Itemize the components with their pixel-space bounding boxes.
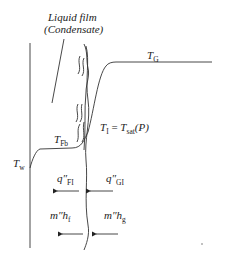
title-pointer-line xyxy=(52,39,64,103)
label-mh-g: m″hg xyxy=(104,209,126,224)
temperature-profile xyxy=(30,62,212,168)
label-T-I-equals-T-sat: TI = Tsat(P) xyxy=(100,121,149,136)
title-liquid-film: Liquid film xyxy=(47,11,97,23)
interface-inner-line xyxy=(84,92,86,150)
stray-dot xyxy=(201,243,202,244)
label-T-Fb: TFb xyxy=(54,133,68,148)
label-T-w: Tw xyxy=(13,157,25,172)
film-wave-3 xyxy=(82,58,84,76)
condensation-film-diagram: Liquid film (Condensate) TG TI = Tsat(P)… xyxy=(0,0,226,270)
film-wave-2 xyxy=(78,56,80,74)
title-condensate: (Condensate) xyxy=(44,23,104,36)
label-q-FI: q″FI xyxy=(57,172,74,187)
film-wave-4 xyxy=(76,104,78,122)
film-wave-5 xyxy=(80,104,82,122)
label-mh-f: m″hf xyxy=(50,209,71,224)
label-q-GI: q″GI xyxy=(106,172,125,187)
film-wave-7 xyxy=(82,122,84,142)
film-wave-6 xyxy=(77,124,80,142)
